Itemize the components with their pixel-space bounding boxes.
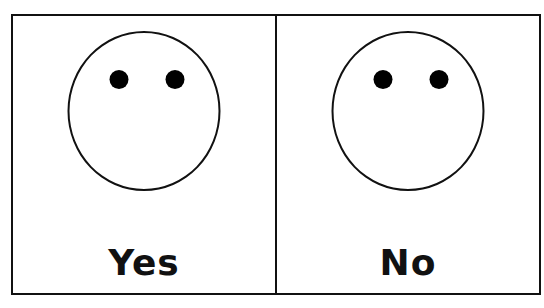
left-eye-icon [374,70,393,89]
choice-board: Yes No [11,14,541,295]
right-eye-icon [430,70,449,89]
neutral-face-icon [68,31,221,191]
neutral-face-icon [332,31,485,191]
no-card[interactable]: No [275,16,539,293]
yes-label: Yes [13,242,275,283]
left-eye-icon [110,70,129,89]
yes-card[interactable]: Yes [13,16,275,293]
no-label: No [277,242,539,283]
right-eye-icon [166,70,185,89]
